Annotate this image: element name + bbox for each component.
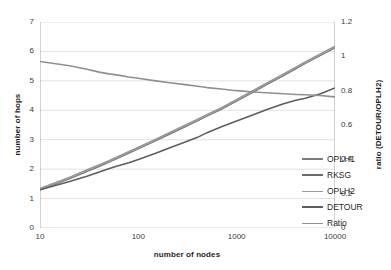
legend-label: OPLH1 (327, 155, 355, 164)
y-tick-label-left: 7 (4, 17, 34, 26)
y-tick-label-right: 1.2 (341, 17, 371, 26)
y-tick-label-left: 3 (4, 135, 34, 144)
y-tick-label-left: 5 (4, 76, 34, 85)
legend-swatch-icon (302, 191, 323, 192)
y-tick-label-left: 6 (4, 46, 34, 55)
legend-item-ratio: Ratio (302, 215, 376, 231)
y-tick-label-left: 2 (4, 164, 34, 173)
chart-legend: OPLH1RKSGOPLH2DETOURRatio (302, 151, 376, 231)
y-tick-label-right: 0.6 (341, 120, 371, 129)
legend-label: RKSG (327, 171, 351, 180)
x-tick-label: 10000 (312, 232, 358, 241)
legend-item-detour: DETOUR (302, 199, 376, 215)
legend-label: Ratio (327, 219, 347, 228)
x-tick-label: 1000 (214, 232, 260, 241)
legend-label: OPLH2 (327, 187, 355, 196)
legend-item-oplh1: OPLH1 (302, 151, 376, 167)
series-line-oplh1 (40, 47, 335, 189)
series-line-rksg (40, 47, 335, 189)
series-lines (40, 47, 335, 190)
legend-swatch-icon (302, 158, 323, 160)
plot-area: OPLH1RKSGOPLH2DETOURRatio (40, 22, 335, 228)
legend-swatch-icon (302, 223, 323, 224)
y-axis-title-left: number of hops (13, 70, 22, 180)
legend-swatch-icon (302, 174, 323, 176)
y-tick-label-left: 4 (4, 105, 34, 114)
y-tick-label-left: 1 (4, 194, 34, 203)
y-tick-label-left: 0 (4, 223, 34, 232)
chart-figure: number of hops ratio (DETOUR/OPLH2) numb… (0, 0, 391, 270)
plot-canvas (40, 22, 335, 228)
legend-label: DETOUR (327, 203, 363, 212)
series-line-ratio (40, 61, 335, 96)
legend-item-oplh2: OPLH2 (302, 183, 376, 199)
series-line-detour (40, 88, 335, 190)
x-tick-label: 100 (115, 232, 161, 241)
gridlines (40, 22, 335, 228)
y-tick-label-right: 0.8 (341, 86, 371, 95)
x-tick-label: 10 (17, 232, 63, 241)
axis-lines (40, 22, 335, 228)
y-tick-label-right: 1 (341, 51, 371, 60)
x-axis-title: number of nodes (39, 250, 335, 259)
legend-swatch-icon (302, 206, 323, 208)
legend-item-rksg: RKSG (302, 167, 376, 183)
series-line-oplh2 (40, 47, 335, 189)
